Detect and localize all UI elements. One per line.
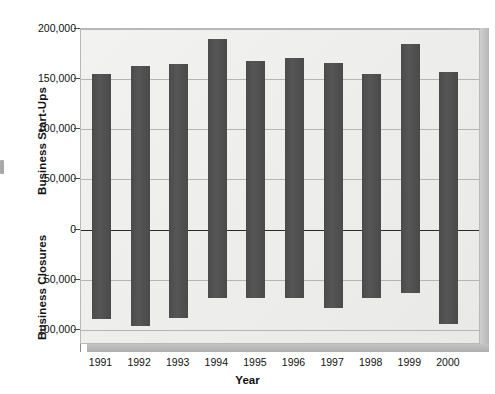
gridline <box>81 29 479 30</box>
bar <box>131 66 150 230</box>
y-tick-label: 50,000 <box>36 173 76 183</box>
bar <box>208 230 227 298</box>
bar <box>208 39 227 230</box>
x-tick-label: 1995 <box>235 356 275 368</box>
y-axis-tick-labels: 200,000150,000100,00050,000050,000100,00… <box>34 0 76 394</box>
gridline <box>81 330 479 331</box>
bar <box>439 72 458 229</box>
x-tick-label: 2000 <box>428 356 468 368</box>
bar <box>131 230 150 326</box>
page-edge-artifact <box>0 160 4 174</box>
y-tick-label: 100,000 <box>36 324 76 334</box>
x-tick-label: 1999 <box>389 356 429 368</box>
x-tick-label: 1997 <box>312 356 352 368</box>
x-tick-label: 1993 <box>158 356 198 368</box>
bar <box>362 230 381 298</box>
bar <box>246 61 265 230</box>
bar <box>324 63 343 230</box>
bar <box>401 230 420 293</box>
bar <box>285 230 304 298</box>
bar <box>92 74 111 229</box>
x-tick-label: 1996 <box>274 356 314 368</box>
x-axis-tick-labels: 1991199219931994199519961997199819992000 <box>80 356 489 372</box>
y-tick-label: 200,000 <box>36 23 76 33</box>
plot-face <box>80 28 480 344</box>
bar <box>401 44 420 230</box>
x-axis-title: Year <box>0 374 495 386</box>
bar <box>246 230 265 298</box>
x-tick-label: 1991 <box>81 356 121 368</box>
bar <box>92 230 111 319</box>
x-tick-label: 1998 <box>351 356 391 368</box>
x-tick-label: 1992 <box>119 356 159 368</box>
y-tick-label: 50,000 <box>36 274 76 284</box>
y-tick-label: 150,000 <box>36 73 76 83</box>
plot-area-3d <box>80 28 489 352</box>
plot-right-panel <box>480 28 489 352</box>
bar <box>285 58 304 230</box>
bar <box>169 64 188 230</box>
bar <box>362 74 381 229</box>
plot-bottom-panel <box>87 344 489 352</box>
bar <box>439 230 458 324</box>
bar <box>169 230 188 318</box>
x-tick-label: 1994 <box>196 356 236 368</box>
y-tick-label: 100,000 <box>36 123 76 133</box>
y-tick-label: 0 <box>36 224 76 234</box>
bar <box>324 230 343 308</box>
chart-page: Business Start-Ups Business Closures 200… <box>0 0 495 394</box>
